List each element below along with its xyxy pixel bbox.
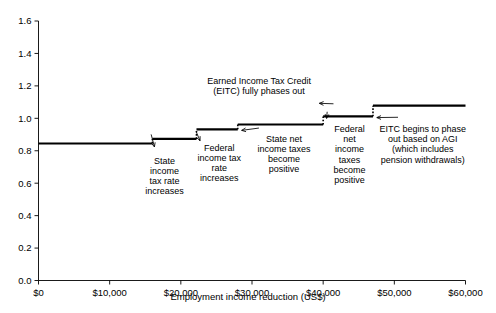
x-tick-label: $50,000 [377,287,411,298]
federal-income-tax-rate-line: Federal [204,143,235,153]
step-chart: $0$10,000$20,000$30,000$40,000$50,000$60… [0,0,496,313]
x-tick-label: $60,000 [448,287,482,298]
y-tick-label: 1.6 [18,15,31,26]
state-income-tax-rate-line: tax rate [149,176,179,186]
state-net-income-taxes-line: become [268,154,300,164]
federal-net-income-taxes-line: income [335,144,364,154]
y-tick-label: 1.0 [18,113,31,124]
y-tick-label: 0.6 [18,178,31,189]
federal-income-tax-rate-line: rate [212,163,228,173]
x-axis-title: Employment income reduction (US$) [170,291,325,302]
federal-net-income-taxes-line: positive [334,175,365,185]
eitc-begins-phase-out-line: pension withdrawals) [381,155,465,165]
state-income-tax-rate-line: State [154,156,175,166]
state-net-income-taxes-line: income taxes [258,144,312,154]
eitc-begins-phase-out-line: (which includes [392,144,454,154]
state-net-income-taxes-line: positive [269,164,300,174]
y-tick-label: 1.2 [18,80,31,91]
y-tick-label: 0.4 [18,210,31,221]
eitc-begins-phase-out-label: EITC begins to phaseout based on AGI(whi… [380,124,467,165]
federal-income-tax-rate-line: increases [200,173,239,183]
federal-net-income-taxes-line: Federal [334,124,365,134]
y-tick-label: 0.2 [18,242,31,253]
eitc-begins-phase-out-line: EITC begins to phase [380,124,467,134]
eitc-fully-phases-out-line: Earned Income Tax Credit [207,76,311,86]
y-tick-label: 1.4 [18,48,31,59]
chart-figure: $0$10,000$20,000$30,000$40,000$50,000$60… [0,0,496,313]
eitc-fully-phases-out-line: (EITC) fully phases out [213,86,305,96]
federal-net-income-taxes-line: become [333,165,365,175]
x-tick-label: $10,000 [92,287,126,298]
y-tick-label: 0.0 [18,275,31,286]
x-tick-label: $0 [33,287,44,298]
federal-net-income-taxes-line: net [343,134,356,144]
eitc-fully-phases-out-label: Earned Income Tax Credit(EITC) fully pha… [207,76,311,96]
federal-net-income-taxes-line: taxes [339,155,361,165]
eitc-begins-phase-out-line: out based on AGI [388,134,458,144]
state-net-income-taxes-line: State net [266,134,303,144]
y-tick-label: 0.8 [18,145,31,156]
state-income-tax-rate-line: increases [145,186,184,196]
state-income-tax-rate-line: income [150,166,179,176]
federal-income-tax-rate-line: income tax [197,153,241,163]
